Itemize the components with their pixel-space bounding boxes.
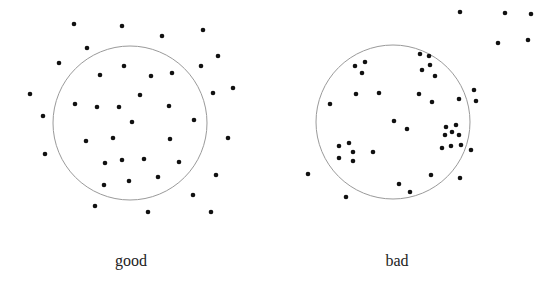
data-point — [201, 28, 206, 33]
data-point — [430, 100, 435, 105]
data-point — [457, 133, 462, 138]
data-point — [85, 46, 90, 51]
data-point — [449, 144, 454, 149]
data-point — [130, 120, 135, 125]
data-point — [170, 71, 175, 76]
data-point — [371, 150, 376, 155]
data-point — [454, 123, 459, 128]
data-point — [192, 118, 197, 123]
data-point — [328, 102, 333, 107]
data-point — [306, 172, 311, 177]
data-point — [347, 141, 352, 146]
bad-label: bad — [357, 252, 437, 270]
data-point — [440, 146, 445, 151]
data-point — [149, 74, 154, 79]
data-point — [429, 173, 434, 178]
data-point — [360, 71, 365, 76]
data-point — [84, 139, 89, 144]
data-point — [226, 136, 231, 141]
data-point — [138, 93, 143, 98]
data-point — [351, 159, 356, 164]
data-point — [120, 24, 125, 29]
data-point — [427, 54, 432, 59]
data-point — [211, 91, 216, 96]
data-point — [529, 12, 534, 17]
data-point — [191, 193, 196, 198]
data-point — [117, 105, 122, 110]
data-point — [168, 137, 173, 142]
data-point — [405, 127, 410, 132]
data-point — [443, 133, 448, 138]
data-point — [103, 161, 108, 166]
data-point — [111, 136, 116, 141]
data-point — [146, 210, 151, 215]
data-point — [417, 92, 422, 97]
data-point — [458, 176, 463, 181]
data-point — [122, 64, 127, 69]
data-point — [72, 22, 77, 27]
data-point — [216, 54, 221, 59]
data-point — [160, 34, 165, 39]
data-point — [363, 60, 368, 65]
data-point — [95, 105, 100, 110]
data-point — [418, 52, 423, 57]
data-point — [496, 41, 501, 46]
data-point — [28, 92, 33, 97]
data-point — [469, 148, 474, 153]
data-point — [337, 156, 342, 161]
data-point — [428, 63, 433, 68]
good-panel — [28, 22, 236, 215]
data-point — [156, 175, 161, 180]
data-point — [98, 73, 103, 78]
data-point — [337, 144, 342, 149]
bad-panel — [306, 10, 534, 200]
data-point — [351, 150, 356, 155]
data-point — [450, 130, 455, 135]
data-point — [408, 190, 413, 195]
data-point — [209, 210, 214, 215]
data-point — [43, 152, 48, 157]
data-point — [127, 179, 132, 184]
data-point — [457, 97, 462, 102]
data-point — [433, 74, 438, 79]
good-label: good — [91, 252, 171, 270]
data-point — [458, 10, 463, 15]
data-point — [231, 86, 236, 91]
data-point — [472, 88, 477, 93]
data-point — [377, 91, 382, 96]
data-point — [214, 173, 219, 178]
data-point — [93, 204, 98, 209]
data-point — [354, 92, 359, 97]
data-point — [199, 64, 204, 69]
data-point — [503, 11, 508, 16]
data-point — [420, 68, 425, 73]
data-point — [474, 99, 479, 104]
scatter-diagram — [0, 0, 554, 282]
data-point — [41, 114, 46, 119]
data-point — [142, 157, 147, 162]
data-point — [392, 119, 397, 124]
data-point — [177, 160, 182, 165]
data-point — [167, 104, 172, 109]
data-point — [353, 64, 358, 69]
data-point — [73, 102, 78, 107]
data-point — [102, 183, 107, 188]
data-point — [57, 61, 62, 66]
data-point — [526, 38, 531, 43]
data-point — [120, 158, 125, 163]
data-point — [397, 182, 402, 187]
data-point — [459, 143, 464, 148]
data-point — [444, 125, 449, 130]
data-point — [344, 195, 349, 200]
